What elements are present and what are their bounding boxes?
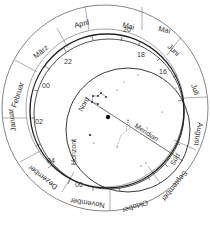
month-label-november: November xyxy=(69,196,105,210)
constellation-south xyxy=(117,120,130,147)
month-label-april: April xyxy=(73,17,90,29)
hour-label-18: 18 xyxy=(137,51,145,58)
meridian-line xyxy=(86,98,183,161)
stars-field xyxy=(89,75,177,167)
hour-label-16: 16 xyxy=(159,68,167,75)
month-label-august: August xyxy=(192,122,205,147)
constellation-big-dipper xyxy=(92,93,106,104)
horizon-circle xyxy=(66,68,190,192)
horizon-label: Horizont xyxy=(70,139,77,165)
month-label-maerz: März xyxy=(32,43,51,61)
meridian-label: Meridian xyxy=(133,122,159,143)
month-label-juni: Juni xyxy=(166,42,182,58)
hour-label-04: 04 xyxy=(47,157,55,164)
planisphere-diagram: Mai April März Februar Januar Dezember N… xyxy=(0,0,210,234)
month-label-februar: Februar xyxy=(9,80,26,108)
north-label: Nord xyxy=(77,96,91,113)
hour-label-02: 02 xyxy=(35,118,43,125)
hour-dial-edge xyxy=(30,34,184,188)
pole-pin xyxy=(106,115,110,119)
month-label-juli: Juli xyxy=(189,83,201,97)
month-label-september: September xyxy=(160,169,190,204)
hour-label-00: 00 xyxy=(42,82,50,89)
hour-label-22: 22 xyxy=(64,58,72,65)
month-label-mai: Mai xyxy=(158,24,172,35)
month-label-oktober: Oktober xyxy=(121,198,150,215)
hour-label-06: 06 xyxy=(75,181,83,188)
hour-dial-inner-edge xyxy=(34,39,184,189)
hour-label-20: 20 xyxy=(123,26,131,33)
month-label-januar: Januar xyxy=(6,108,18,132)
